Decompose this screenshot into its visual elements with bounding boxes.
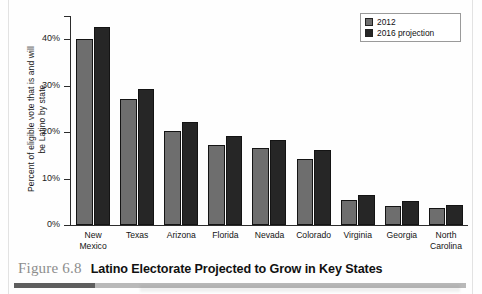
bar-2016-projection [94, 27, 111, 225]
y-axis-top-cap [64, 16, 71, 17]
bar-2012 [76, 39, 93, 225]
bar-2012 [385, 206, 402, 226]
bar-2012 [164, 131, 181, 225]
x-axis-label-line: New [71, 230, 115, 241]
bar-2016-projection [402, 201, 419, 225]
chart-legend: 2012 2016 projection [360, 13, 461, 42]
y-tick-mark [64, 39, 71, 40]
x-axis-label-line: North [424, 230, 468, 241]
x-axis-label: NorthCarolina [424, 230, 468, 251]
y-tick-label: 20% [20, 126, 60, 136]
x-axis-label: Georgia [380, 230, 424, 241]
bar-chart: Percent of eligible vote that is and wil… [0, 0, 482, 256]
x-axis-label: Arizona [159, 230, 203, 241]
bar-group [203, 16, 247, 225]
legend-item: 2012 [365, 16, 456, 27]
y-axis-title: Percent of eligible vote that is and wil… [26, 19, 48, 219]
bar-2016-projection [270, 140, 287, 225]
x-axis-label: Florida [203, 230, 247, 241]
bar-2012 [429, 208, 446, 225]
legend-label-2016-projection: 2016 projection [377, 28, 434, 38]
x-axis-label: NewMexico [71, 230, 115, 251]
x-axis-label-line: Carolina [424, 241, 468, 252]
y-tick-mark [64, 225, 71, 226]
caption-row: Figure 6.8 Latino Electorate Projected t… [18, 260, 383, 277]
bar-group [159, 16, 203, 225]
y-tick-mark [64, 86, 71, 87]
y-axis-title-line-1: Percent of eligible vote that is and wil… [26, 19, 37, 219]
bar-2012 [208, 145, 225, 225]
x-axis-label: Virginia [336, 230, 380, 241]
bar-2012 [341, 200, 358, 225]
x-axis-label: Texas [115, 230, 159, 241]
y-tick-mark [64, 179, 71, 180]
y-tick-mark [64, 132, 71, 133]
bar-group [247, 16, 291, 225]
y-tick-label: 40% [20, 33, 60, 43]
bar-2016-projection [358, 195, 375, 225]
y-tick-label: 10% [20, 173, 60, 183]
bar-2016-projection [138, 89, 155, 225]
legend-item: 2016 projection [365, 27, 456, 38]
legend-label-2012: 2012 [377, 17, 396, 27]
scan-artifact [140, 285, 460, 292]
caption-rule-accent [14, 283, 95, 288]
bar-group [115, 16, 159, 225]
bar-2016-projection [182, 122, 199, 225]
bar-2016-projection [314, 150, 331, 225]
bar-2016-projection [226, 136, 243, 225]
figure-page: Percent of eligible vote that is and wil… [0, 0, 482, 294]
bar-2012 [252, 148, 269, 225]
y-tick-label: 30% [20, 80, 60, 90]
y-tick-label: 0% [20, 219, 60, 229]
figure-title: Latino Electorate Projected to Grow in K… [91, 262, 383, 276]
figure-number: Figure 6.8 [18, 260, 82, 277]
x-axis-label: Colorado [292, 230, 336, 241]
plot-area [71, 16, 468, 225]
y-axis-title-line-2: be Latino by state [37, 19, 48, 219]
bar-2012 [120, 99, 137, 225]
bar-group [71, 16, 115, 225]
bar-group [336, 16, 380, 225]
bar-group [292, 16, 336, 225]
bar-group [380, 16, 424, 225]
x-axis-label-line: Mexico [71, 241, 115, 252]
legend-swatch-2012 [365, 18, 373, 26]
bar-group [424, 16, 468, 225]
x-axis-label: Nevada [247, 230, 291, 241]
bar-2012 [297, 159, 314, 225]
legend-swatch-2016-projection [365, 29, 373, 37]
bar-2016-projection [446, 205, 463, 225]
